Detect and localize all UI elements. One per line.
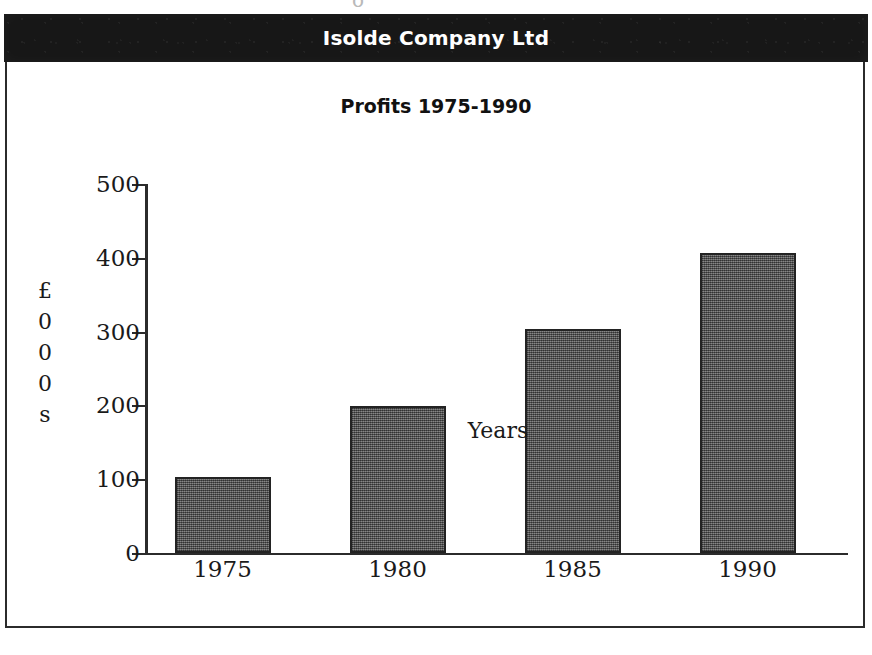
- y-axis-title: £ 0 0 0 s: [32, 275, 58, 430]
- y-tick-label: 200: [96, 392, 140, 418]
- y-axis-title-line-2: 0: [32, 337, 58, 368]
- chart-title: Profits 1975-1990: [0, 95, 872, 117]
- y-tick-label: 100: [96, 466, 140, 492]
- company-title: Isolde Company Ltd: [323, 26, 549, 50]
- x-tick-label-1975: 1975: [193, 556, 252, 582]
- y-axis-title-line-1: 0: [32, 306, 58, 337]
- y-tick-label: 500: [96, 171, 140, 197]
- x-tick-label-1985: 1985: [543, 556, 602, 582]
- bar-1975: [175, 477, 271, 553]
- y-tick-label: 300: [96, 319, 140, 345]
- x-axis-title: Years: [148, 418, 848, 443]
- y-tick-label: 400: [96, 245, 140, 271]
- y-tick-label: 0: [125, 540, 140, 566]
- x-axis-line: [145, 553, 848, 555]
- y-axis-title-line-0: £: [32, 275, 58, 306]
- bar-1990: [700, 253, 796, 553]
- company-header-band: Isolde Company Ltd: [4, 14, 868, 62]
- x-tick-label-1980: 1980: [368, 556, 427, 582]
- x-tick-label-1990: 1990: [718, 556, 777, 582]
- y-axis-title-line-3: 0: [32, 368, 58, 399]
- y-axis-title-line-4: s: [32, 399, 58, 430]
- bar-series: [148, 184, 848, 553]
- scan-artifact: o: [352, 0, 382, 9]
- plot-area: 0100200300400500 1975198019851990: [148, 184, 848, 553]
